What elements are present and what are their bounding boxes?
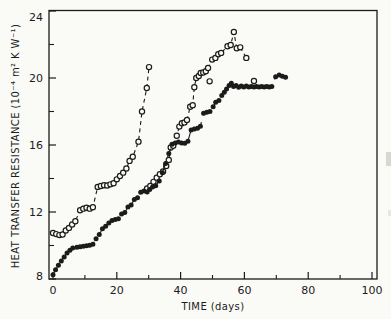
y-tick-label: 20 [29,72,43,85]
data-point-open-circle [190,103,195,108]
x-tick-label: 80 [301,284,315,297]
data-point-open-circle [90,205,95,210]
data-point-open-circle [184,117,189,122]
data-point-filled-circle [53,267,58,272]
data-point-open-circle [244,55,249,60]
data-point-filled-circle [51,272,56,277]
data-point-open-circle [124,166,129,171]
data-point-filled-circle [94,236,99,241]
data-point-filled-circle [269,84,274,89]
x-tick-label: 40 [174,284,188,297]
y-tick-label: 24 [29,11,43,24]
data-point-filled-circle [90,242,95,247]
y-tick-label: 16 [29,139,43,152]
data-point-filled-circle [207,109,212,114]
data-point-filled-circle [153,183,158,188]
data-point-filled-circle [160,170,165,175]
plot-generated-layer: 020406080100812162024 [29,11,383,298]
data-point-filled-circle [116,216,121,221]
data-point-open-circle [174,133,179,138]
data-point-filled-circle [59,258,64,263]
data-point-open-circle [139,109,144,114]
data-point-open-circle [219,50,224,55]
data-point-open-circle [228,42,233,47]
heat-transfer-resistance-chart: 020406080100812162024 TIME (days) HEAT T… [0,0,391,319]
data-point-filled-circle [157,179,162,184]
data-point-filled-circle [56,263,61,268]
data-point-filled-circle [166,151,171,156]
x-tick-label: 100 [362,284,383,297]
data-point-open-circle [192,85,197,90]
data-point-filled-circle [216,98,221,103]
data-point-filled-circle [185,139,190,144]
x-tick-label: 0 [50,284,57,297]
data-point-open-circle [205,65,210,70]
data-point-open-circle [146,65,151,70]
data-point-filled-circle [97,232,102,237]
data-point-open-circle [130,154,135,159]
data-point-filled-circle [163,161,168,166]
data-point-filled-circle [198,124,203,129]
data-point-filled-circle [129,202,134,207]
data-point-open-circle [207,79,212,84]
data-point-filled-circle [211,104,216,109]
data-point-filled-circle [70,246,75,251]
data-point-filled-circle [135,195,140,200]
data-point-filled-circle [122,210,127,215]
data-point-open-circle [73,219,78,224]
y-axis-title: HEAT TRANSFER RESISTANCE (10⁻⁴ m² K W⁻¹) [10,24,21,269]
data-point-open-circle [251,78,256,83]
scatter-plot-figure: 020406080100812162024 TIME (days) HEAT T… [0,0,391,319]
run-2-open-circles-trend-line [147,32,246,189]
x-tick-label: 20 [110,284,124,297]
y-tick-label: 8 [36,270,43,283]
scan-artifact [386,152,391,166]
data-point-open-circle [238,45,243,50]
data-point-filled-circle [283,75,288,80]
run-1-open-circles-trend-line [53,67,149,235]
x-axis-title: TIME (days) [181,301,245,312]
data-point-open-circle [136,139,141,144]
data-point-open-circle [144,85,149,90]
data-point-open-circle [231,29,236,34]
x-tick-label: 60 [237,284,251,297]
y-tick-label: 12 [29,206,43,219]
